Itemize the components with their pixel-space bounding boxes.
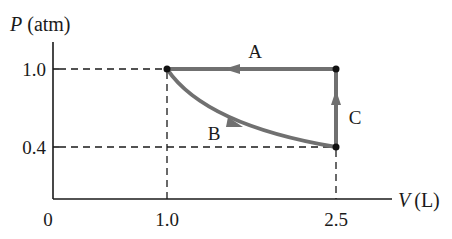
x-tick-label-2-5: 2.5	[324, 209, 348, 230]
arrow-up-icon	[331, 90, 341, 105]
process-b-label: B	[208, 123, 221, 144]
process-c-label: C	[349, 107, 362, 128]
y-tick-label-1-0: 1.0	[22, 59, 46, 80]
process-a-label: A	[248, 41, 262, 62]
x-axis-label: V(L)	[398, 189, 440, 212]
process-b-curve	[167, 69, 336, 147]
state-point-1	[164, 66, 171, 73]
pv-diagram: P(atm) V(L) 1.0 0.4 0 1.0 2.5 A B C	[0, 0, 452, 239]
arrow-left-icon	[224, 64, 240, 74]
y-tick-label-0-4: 0.4	[22, 137, 46, 158]
y-axis-label: P(atm)	[9, 13, 71, 36]
state-point-3	[333, 144, 340, 151]
state-point-2	[333, 66, 340, 73]
x-tick-label-0: 0	[43, 209, 53, 230]
x-tick-label-1-0: 1.0	[155, 209, 179, 230]
